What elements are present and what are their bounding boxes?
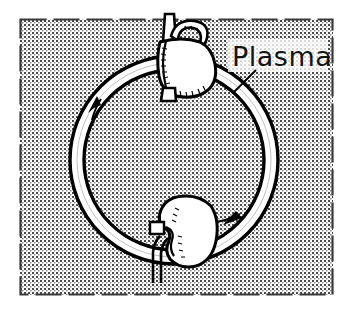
- heart-inferior-vessel: [161, 88, 176, 101]
- kidney-body: [159, 196, 217, 267]
- figure-container: Plasma: [0, 0, 349, 311]
- kidney-renal-vessel: [150, 222, 164, 234]
- heart-organ: [158, 14, 216, 101]
- plasma-label: Plasma: [232, 41, 332, 72]
- plasma-circulation-figure: Plasma: [0, 0, 349, 311]
